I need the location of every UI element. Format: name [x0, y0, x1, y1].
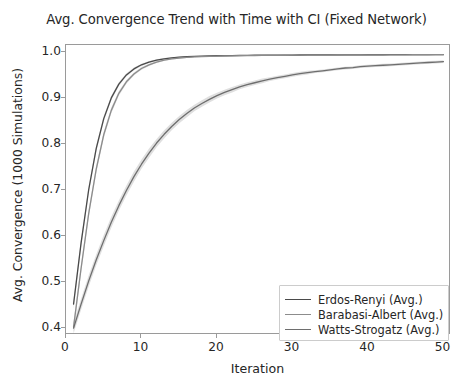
y-tick-label: 0.6: [27, 229, 61, 241]
y-tick-label: 0.5: [27, 275, 61, 287]
chart-figure: Avg. Convergence Trend with Time with CI…: [0, 0, 473, 390]
x-tick-label: 10: [120, 340, 160, 354]
x-tick-label: 40: [347, 340, 387, 354]
legend-label: Erdos-Renyi (Avg.): [318, 293, 423, 307]
legend-line-swatch: [285, 295, 311, 305]
x-tick-label: 20: [196, 340, 236, 354]
legend-line-swatch: [285, 310, 311, 320]
legend-item[interactable]: Erdos-Renyi (Avg.): [285, 292, 423, 308]
chart-title: Avg. Convergence Trend with Time with CI…: [0, 12, 473, 27]
x-tick-mark: [140, 334, 141, 338]
chart-legend[interactable]: Erdos-Renyi (Avg.)Barabasi-Albert (Avg.)…: [279, 285, 449, 341]
x-tick-mark: [65, 334, 66, 338]
y-tick-label: 1.0: [27, 45, 61, 57]
y-tick-label: 0.8: [27, 137, 61, 149]
legend-label: Watts-Strogatz (Avg.): [318, 323, 439, 337]
y-tick-label: 0.4: [27, 321, 61, 333]
x-tick-mark: [216, 334, 217, 338]
legend-item[interactable]: Watts-Strogatz (Avg.): [285, 322, 439, 338]
series-line: [74, 55, 444, 305]
x-axis-label: Iteration: [65, 361, 450, 376]
legend-item[interactable]: Barabasi-Albert (Avg.): [285, 307, 443, 323]
y-tick-label: 0.7: [27, 183, 61, 195]
legend-line-swatch: [285, 325, 311, 335]
x-tick-label: 50: [422, 340, 462, 354]
x-axis-tick-labels: 01020304050: [65, 340, 450, 358]
legend-label: Barabasi-Albert (Avg.): [318, 308, 443, 322]
y-tick-label: 0.9: [27, 91, 61, 103]
x-tick-label: 30: [271, 340, 311, 354]
y-axis-tick-labels: 0.40.50.60.70.80.91.0: [20, 44, 61, 334]
x-tick-label: 0: [45, 340, 85, 354]
